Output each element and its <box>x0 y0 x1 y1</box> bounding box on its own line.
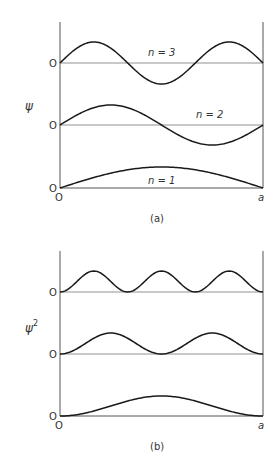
panel-b: O O O ψ2 O a (b) <box>25 251 264 452</box>
panel-a-x-end: a <box>258 192 264 203</box>
panel-b-x-start: O <box>55 420 63 431</box>
panel-a-label-n2: n = 2 <box>196 109 223 120</box>
panel-b-zero-n3: O <box>49 287 57 298</box>
panel-b-x-end: a <box>258 420 264 431</box>
panel-b-caption: (b) <box>150 441 164 452</box>
panel-b-curve-n1 <box>60 396 263 416</box>
panel-a-zero-n2: O <box>49 120 57 131</box>
panel-b-zero-n2: O <box>49 349 57 360</box>
panel-a-x-start: O <box>55 192 63 203</box>
panel-b-ylabel: ψ2 <box>25 319 38 335</box>
panel-a-label-n3: n = 3 <box>148 47 175 58</box>
panel-b-curve-n3 <box>60 271 263 292</box>
panel-a-caption: (a) <box>150 213 164 224</box>
panel-a-ylabel: ψ <box>25 99 34 113</box>
panel-b-ylabel-sup: 2 <box>33 319 38 328</box>
panel-a-label-n1: n = 1 <box>148 175 175 186</box>
panel-a: O O O n = 3 n = 2 n = 1 ψ O a (a) <box>25 22 264 224</box>
particle-in-box-diagram: O O O n = 3 n = 2 n = 1 ψ O a (a) O O O … <box>0 0 280 466</box>
panel-a-zero-n3: O <box>49 58 57 69</box>
panel-b-curve-n2 <box>60 333 263 354</box>
